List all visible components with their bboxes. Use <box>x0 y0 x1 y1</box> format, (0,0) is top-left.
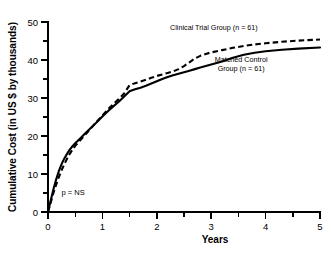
chart-annotations: p = NS <box>62 188 85 197</box>
x-tick-label: 5 <box>317 221 322 232</box>
y-axis-tick-labels: 01020304050 <box>27 17 38 218</box>
series-label-matched-control: Matched ControlGroup (n = 61) <box>215 55 268 73</box>
cumulative-cost-line-chart: 01020304050 012345 Cumulative Cost (in U… <box>0 0 334 256</box>
y-axis-group: 01020304050 <box>27 17 48 218</box>
y-axis-title: Cumulative Cost (in US $ by thousands) <box>7 22 18 212</box>
chart-figure: 01020304050 012345 Cumulative Cost (in U… <box>0 0 334 256</box>
y-tick-label: 0 <box>33 207 38 218</box>
series-label-clinical-trial: Clinical Trial Group (n = 61) <box>170 23 258 32</box>
x-tick-label: 2 <box>154 221 159 232</box>
x-tick-label: 3 <box>209 221 214 232</box>
y-tick-label: 20 <box>27 131 38 142</box>
data-series-group <box>48 39 320 212</box>
x-axis-group: 012345 <box>45 212 322 232</box>
series-line-matched-control <box>48 47 320 212</box>
y-tick-label: 10 <box>27 169 38 180</box>
y-tick-label: 30 <box>27 93 38 104</box>
x-tick-label: 4 <box>263 221 268 232</box>
x-axis-title: Years <box>202 234 229 245</box>
series-line-clinical-trial <box>48 39 320 212</box>
p-value-annotation: p = NS <box>62 188 85 197</box>
x-tick-label: 0 <box>45 221 50 232</box>
y-tick-label: 50 <box>27 17 38 28</box>
x-axis-tick-labels: 012345 <box>45 221 322 232</box>
x-tick-label: 1 <box>100 221 105 232</box>
y-tick-label: 40 <box>27 55 38 66</box>
